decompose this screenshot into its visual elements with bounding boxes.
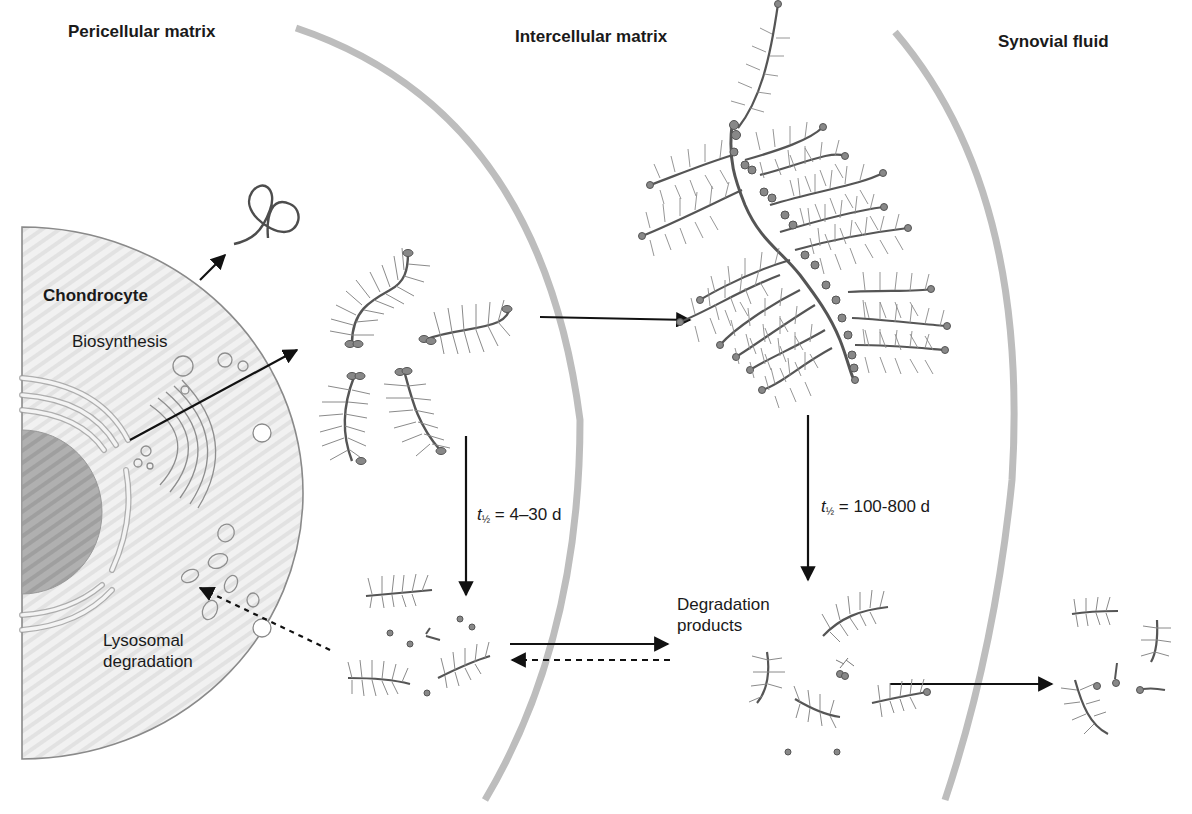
proteoglycan-aggregate xyxy=(639,1,951,409)
monomer xyxy=(319,373,370,465)
secreted-molecule-icon xyxy=(234,186,299,244)
cell-label-chondrocyte: Chondrocyte xyxy=(43,286,148,306)
label-degradation-products: Degradation products xyxy=(677,594,770,636)
intercellular-fragments xyxy=(749,590,931,755)
monomer xyxy=(330,248,430,348)
region-label-synovial: Synovial fluid xyxy=(998,32,1109,52)
halflife-label-intercellular: t½ = 100-800 d xyxy=(821,497,930,517)
proteoglycan-turnover-diagram xyxy=(0,0,1192,814)
monomer xyxy=(419,300,512,354)
label-lysosomal-degradation: Lysosomal degradation xyxy=(103,630,193,672)
monomer xyxy=(384,368,450,457)
synovial-fragments xyxy=(1061,597,1171,734)
region-label-pericellular: Pericellular matrix xyxy=(68,22,215,42)
chondrocyte-cell xyxy=(22,227,303,759)
pericellular-fragments xyxy=(348,574,490,696)
halflife-label-pericellular: t½ = 4–30 d xyxy=(477,505,561,525)
region-label-intercellular: Intercellular matrix xyxy=(515,27,667,47)
proteoglycan-monomers xyxy=(319,248,512,465)
label-biosynthesis: Biosynthesis xyxy=(72,331,167,352)
